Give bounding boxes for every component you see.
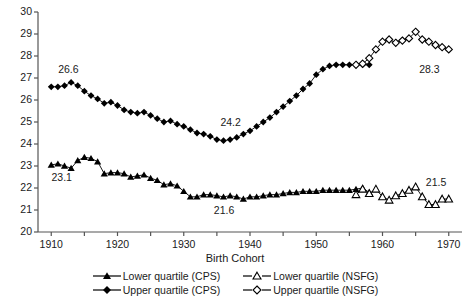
series-0 — [48, 154, 373, 202]
x-axis-ticks — [51, 232, 449, 236]
chart-container: Birth Cohort Lower quartile (CPS) Lower … — [0, 0, 470, 307]
y-tick-label: 20 — [8, 225, 32, 237]
triangle-filled-icon — [92, 270, 122, 282]
legend-label-upper-nsfg: Upper quartile (NSFG) — [273, 284, 378, 296]
y-tick-label: 29 — [8, 27, 32, 39]
y-tick-label: 21 — [8, 203, 32, 215]
legend-row-lower: Lower quartile (CPS) Lower quartile (NSF… — [92, 270, 378, 282]
triangle-open-icon — [242, 270, 272, 282]
y-tick-label: 23 — [8, 159, 32, 171]
x-tick-label: 1940 — [232, 238, 268, 250]
diamond-filled-icon — [92, 284, 122, 296]
y-tick-label: 26 — [8, 93, 32, 105]
x-axis-title: Birth Cohort — [0, 252, 470, 264]
x-tick-label: 1950 — [298, 238, 334, 250]
data-annotation: 21.5 — [426, 176, 446, 188]
legend-item-upper-cps: Upper quartile (CPS) — [92, 284, 220, 296]
y-tick-label: 22 — [8, 181, 32, 193]
x-tick-label: 1970 — [431, 238, 467, 250]
legend-label-upper-cps: Upper quartile (CPS) — [123, 284, 220, 296]
diamond-open-icon — [242, 284, 272, 296]
legend-item-upper-nsfg: Upper quartile (NSFG) — [242, 284, 378, 296]
data-annotation: 28.3 — [419, 63, 439, 75]
legend-item-lower-nsfg: Lower quartile (NSFG) — [242, 270, 378, 282]
x-tick-label: 1910 — [33, 238, 69, 250]
x-tick-label: 1960 — [365, 238, 401, 250]
data-annotation: 26.6 — [58, 63, 78, 75]
data-annotation: 24.2 — [220, 116, 240, 128]
data-annotation: 21.6 — [214, 204, 234, 216]
y-tick-label: 28 — [8, 49, 32, 61]
y-tick-label: 25 — [8, 115, 32, 127]
legend-label-lower-nsfg: Lower quartile (NSFG) — [273, 270, 378, 282]
chart-legend: Lower quartile (CPS) Lower quartile (NSF… — [0, 270, 470, 296]
y-tick-label: 30 — [8, 5, 32, 17]
y-tick-label: 24 — [8, 137, 32, 149]
legend-label-lower-cps: Lower quartile (CPS) — [123, 270, 220, 282]
data-annotation: 23.1 — [52, 171, 72, 183]
x-tick-label: 1930 — [166, 238, 202, 250]
y-tick-label: 27 — [8, 71, 32, 83]
series-1 — [48, 61, 373, 144]
legend-row-upper: Upper quartile (CPS) Upper quartile (NSF… — [92, 284, 378, 296]
legend-item-lower-cps: Lower quartile (CPS) — [92, 270, 220, 282]
x-tick-label: 1920 — [100, 238, 136, 250]
